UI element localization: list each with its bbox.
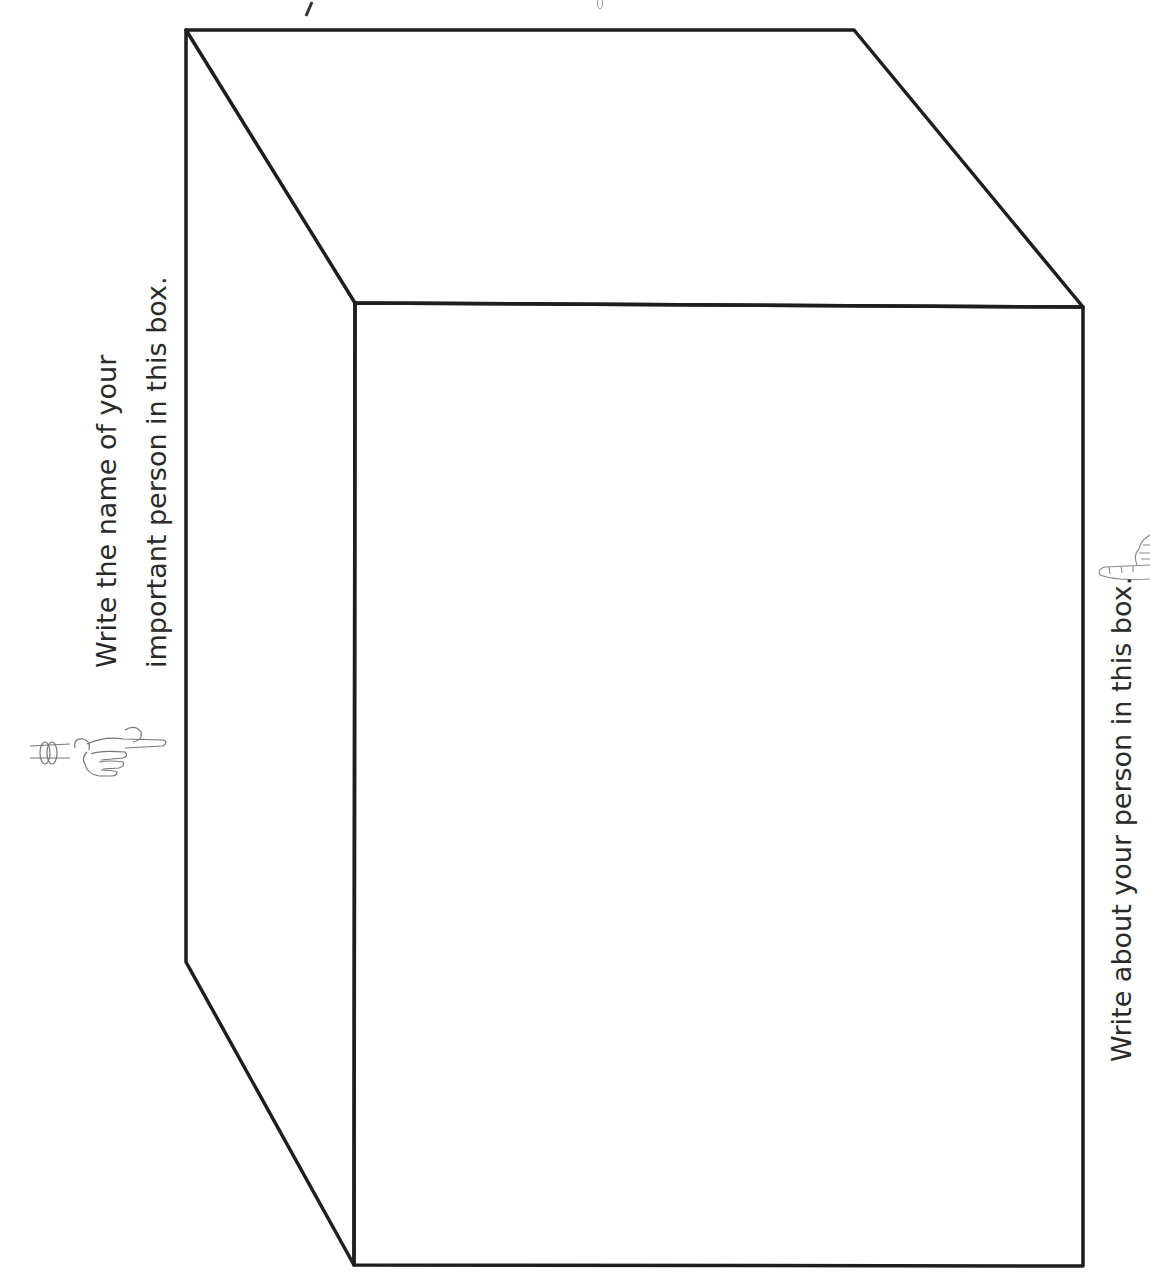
instruction-line-2: important person in this box. xyxy=(132,276,182,668)
top-text-fragment xyxy=(306,2,312,16)
box-side-face[interactable] xyxy=(186,30,355,1265)
worksheet-page: Write the name of your important person … xyxy=(0,0,1150,1279)
box-front-face[interactable] xyxy=(354,303,1083,1266)
pointing-hand-icon xyxy=(25,718,175,788)
about-box-instruction: Write about your person in this box. xyxy=(1102,577,1142,1062)
name-box-instruction: Write the name of your important person … xyxy=(82,276,182,668)
instruction-line-1: Write the name of your xyxy=(82,276,132,668)
top-text-fragment xyxy=(597,0,602,9)
box-top-face xyxy=(186,30,1083,307)
